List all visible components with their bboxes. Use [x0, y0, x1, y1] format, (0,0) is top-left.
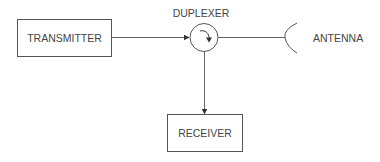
duplexer-block-diagram: TRANSMITTER DUPLEXER ANTENNA RECEIVER: [0, 0, 380, 162]
duplexer-label: DUPLEXER: [173, 7, 230, 19]
duplexer-circle: [190, 24, 218, 52]
antenna-label: ANTENNA: [313, 32, 363, 44]
transmitter-label: TRANSMITTER: [27, 32, 102, 44]
receiver-block: RECEIVER: [168, 115, 243, 152]
transmitter-block: TRANSMITTER: [18, 20, 112, 57]
antenna-block: ANTENNA: [285, 23, 363, 53]
duplexer-block: DUPLEXER: [173, 7, 230, 52]
receiver-label: RECEIVER: [178, 127, 232, 139]
antenna-icon: [285, 23, 297, 53]
